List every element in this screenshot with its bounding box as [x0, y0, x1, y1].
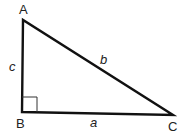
vertex-label-c: C [168, 119, 177, 134]
vertex-label-b: B [16, 116, 25, 131]
triangle-diagram: A B C c b a [0, 0, 185, 139]
side-label-c: c [9, 59, 16, 74]
triangle-shape [22, 20, 173, 115]
right-angle-marker [22, 97, 37, 112]
side-label-a: a [90, 115, 97, 130]
side-label-b: b [100, 52, 107, 67]
vertex-label-a: A [19, 2, 28, 17]
